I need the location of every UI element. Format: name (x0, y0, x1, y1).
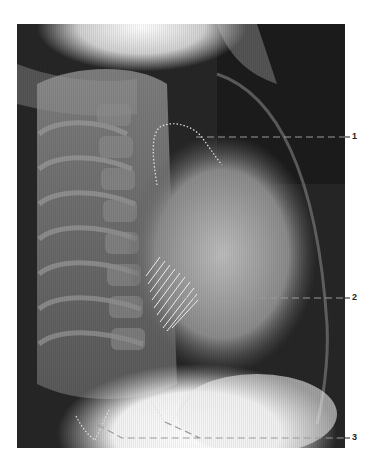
radiograph (17, 24, 345, 448)
annotation-label-2: 2 (352, 292, 357, 302)
annotation-label-3: 3 (352, 432, 357, 442)
xray-image (17, 24, 345, 448)
annotation-label-1: 1 (352, 131, 357, 141)
